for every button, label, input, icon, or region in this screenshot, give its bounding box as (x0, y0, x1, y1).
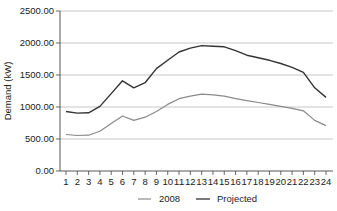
x-tick-label: 21 (287, 176, 298, 187)
demand-line-chart: 0.00500.001000.001500.002000.002500.00 1… (0, 0, 337, 211)
x-tick-label: 9 (154, 176, 159, 187)
x-tick-label: 18 (253, 176, 264, 187)
x-tick-label: 11 (174, 176, 185, 187)
x-tick-label: 14 (208, 176, 219, 187)
legend: 2008 Projected (138, 193, 257, 204)
x-tick-label: 1 (63, 176, 68, 187)
x-tick-label: 5 (109, 176, 114, 187)
y-tick-label: 2500.00 (20, 5, 54, 16)
y-axis-title: Demand (kW) (2, 62, 13, 121)
x-tick-label: 13 (196, 176, 207, 187)
x-tick-label: 15 (219, 176, 230, 187)
x-tick-label: 7 (131, 176, 136, 187)
x-tick-label: 8 (142, 176, 147, 187)
x-tick-label: 10 (162, 176, 173, 187)
x-tick-label: 6 (120, 176, 125, 187)
x-tick-label: 12 (185, 176, 196, 187)
x-tick-label: 4 (97, 176, 102, 187)
x-tick-label: 3 (86, 176, 91, 187)
x-axis: 123456789101112131415161718192021222324 (60, 171, 333, 187)
x-tick-label: 17 (242, 176, 253, 187)
x-tick-label: 23 (309, 176, 320, 187)
series-line-projected (66, 46, 326, 114)
x-tick-label: 19 (264, 176, 275, 187)
x-tick-label: 22 (298, 176, 309, 187)
x-tick-label: 16 (230, 176, 241, 187)
x-tick-label: 20 (275, 176, 286, 187)
legend-label-2008: 2008 (159, 193, 180, 204)
y-tick-label: 1500.00 (20, 69, 54, 80)
legend-label-projected: Projected (217, 193, 257, 204)
y-tick-label: 2000.00 (20, 37, 54, 48)
y-tick-label: 1000.00 (20, 101, 54, 112)
x-tick-label: 2 (75, 176, 80, 187)
y-tick-label: 500.00 (25, 133, 54, 144)
series-lines (66, 46, 326, 136)
y-tick-label: 0.00 (36, 165, 55, 176)
gridlines (60, 11, 333, 139)
x-tick-label: 24 (321, 176, 332, 187)
y-axis: 0.00500.001000.001500.002000.002500.00 (20, 5, 60, 176)
